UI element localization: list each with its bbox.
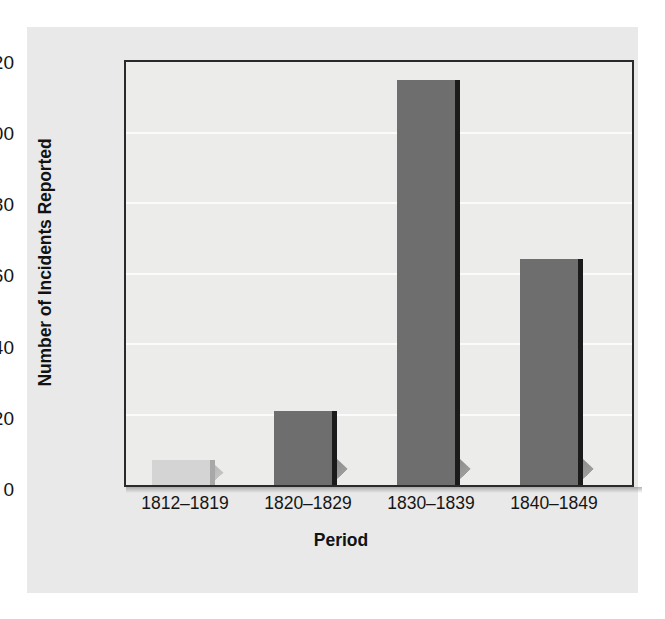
bar-shadow — [337, 459, 365, 485]
bar-body — [520, 259, 578, 485]
y-tick-label-80: 80 — [0, 195, 14, 214]
bar-shadow — [583, 459, 611, 485]
chart-figure: Number of Incidents Reported 120 100 80 … — [27, 27, 638, 593]
plot-area — [124, 60, 634, 487]
y-tick-label-20: 20 — [0, 409, 14, 428]
y-axis-title: Number of Incidents Reported — [27, 27, 63, 497]
y-tick-label-40: 40 — [0, 338, 14, 357]
bar-edge — [210, 460, 215, 485]
y-tick-label-0: 0 — [0, 480, 14, 499]
bar-1840-1849[interactable] — [520, 259, 583, 485]
x-tick-label-1840-1849: 1840–1849 — [489, 495, 619, 513]
bar-shadow — [460, 459, 488, 485]
gridline-80 — [126, 202, 632, 204]
x-axis-title: Period — [63, 525, 619, 555]
bar-body — [152, 460, 210, 485]
gridline-100 — [126, 132, 632, 134]
bar-1820-1829[interactable] — [274, 411, 337, 485]
bar-1812-1819[interactable] — [152, 460, 215, 485]
y-tick-label-100: 100 — [0, 124, 14, 143]
y-tick-label-120: 120 — [0, 53, 14, 72]
bar-1830-1839[interactable] — [397, 80, 460, 485]
bar-body — [397, 80, 455, 485]
x-tick-label-1812-1819: 1812–1819 — [120, 495, 250, 513]
bar-shadow — [215, 465, 237, 485]
x-tick-label-1830-1839: 1830–1839 — [366, 495, 496, 513]
bar-edge — [578, 259, 583, 485]
y-axis-title-text: Number of Incidents Reported — [35, 138, 56, 386]
y-tick-label-60: 60 — [0, 266, 14, 285]
bar-edge — [455, 80, 460, 485]
bar-edge — [332, 411, 337, 485]
x-tick-label-1820-1829: 1820–1829 — [243, 495, 373, 513]
bar-body — [274, 411, 332, 485]
